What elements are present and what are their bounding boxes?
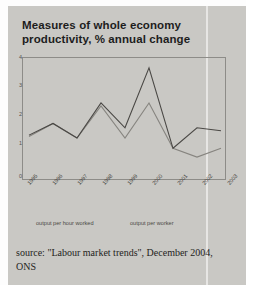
plot-area — [22, 57, 226, 180]
legend-label-output-per-hour-worked: output per hour worked — [36, 220, 94, 226]
x-axis-labels: 1995 1996 1997 1998 1999 2000 2001 2002 … — [22, 182, 232, 216]
page-bottom-margin — [0, 285, 254, 293]
y-tick-4: 4 — [10, 54, 22, 60]
scanned-page: Measures of whole economy productivity, … — [0, 0, 254, 293]
legend-label-output-per-worker: output per worker — [130, 220, 174, 226]
line-chart-svg — [23, 58, 227, 181]
y-tick-3: 3 — [10, 82, 22, 88]
series-output-per-worker-line — [29, 103, 221, 157]
y-tick-2: 2 — [10, 111, 22, 117]
chart-source-note: source: "Labour market trends", December… — [16, 246, 231, 273]
series-output-per-hour-worked-line — [29, 68, 221, 148]
y-tick-0: 0 — [10, 173, 22, 179]
chart-title: Measures of whole economy productivity, … — [22, 18, 227, 46]
page-right-margin — [246, 0, 254, 293]
y-tick-1: 1 — [10, 140, 22, 146]
